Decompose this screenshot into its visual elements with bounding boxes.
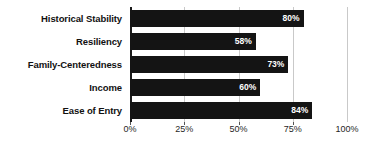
x-tick-label: 100% (335, 124, 358, 134)
bar-value-label: 58% (235, 37, 252, 46)
category-label-row: Resiliency (0, 30, 126, 53)
bar-value-label: 84% (291, 106, 308, 115)
category-label: Family-Centeredness (28, 59, 126, 70)
bar-value-label: 80% (283, 14, 300, 23)
x-axis-tick-labels: 0% 25% 50% 75% 100% (130, 124, 347, 140)
plot-area: 80% 58% 73% 60% 84% (130, 7, 347, 122)
bar[interactable]: 60% (130, 79, 260, 96)
bar-value-label: 73% (267, 60, 284, 69)
bar[interactable]: 80% (130, 10, 304, 27)
x-tick-label: 50% (229, 124, 247, 134)
category-label-row: Family-Centeredness (0, 53, 126, 76)
x-tick-label: 25% (175, 124, 193, 134)
bar-row: 80% (130, 7, 347, 30)
gridline (347, 7, 348, 122)
category-label-row: Income (0, 76, 126, 99)
category-label-row: Historical Stability (0, 7, 126, 30)
bar-row: 60% (130, 76, 347, 99)
bar-row: 84% (130, 99, 347, 122)
horizontal-bar-chart: Historical Stability Resiliency Family-C… (0, 0, 375, 147)
category-label: Income (89, 82, 126, 93)
bar-value-label: 60% (239, 83, 256, 92)
x-tick-label: 0% (123, 124, 136, 134)
category-label: Historical Stability (41, 13, 126, 24)
bar-series: 80% 58% 73% 60% 84% (130, 7, 347, 122)
category-label: Ease of Entry (63, 105, 126, 116)
category-axis-labels: Historical Stability Resiliency Family-C… (0, 7, 126, 122)
category-label: Resiliency (76, 36, 126, 47)
bar[interactable]: 73% (130, 56, 288, 73)
x-tick-label: 75% (284, 124, 302, 134)
bar[interactable]: 84% (130, 102, 312, 119)
bar-row: 58% (130, 30, 347, 53)
bar-row: 73% (130, 53, 347, 76)
bar[interactable]: 58% (130, 33, 256, 50)
category-label-row: Ease of Entry (0, 99, 126, 122)
